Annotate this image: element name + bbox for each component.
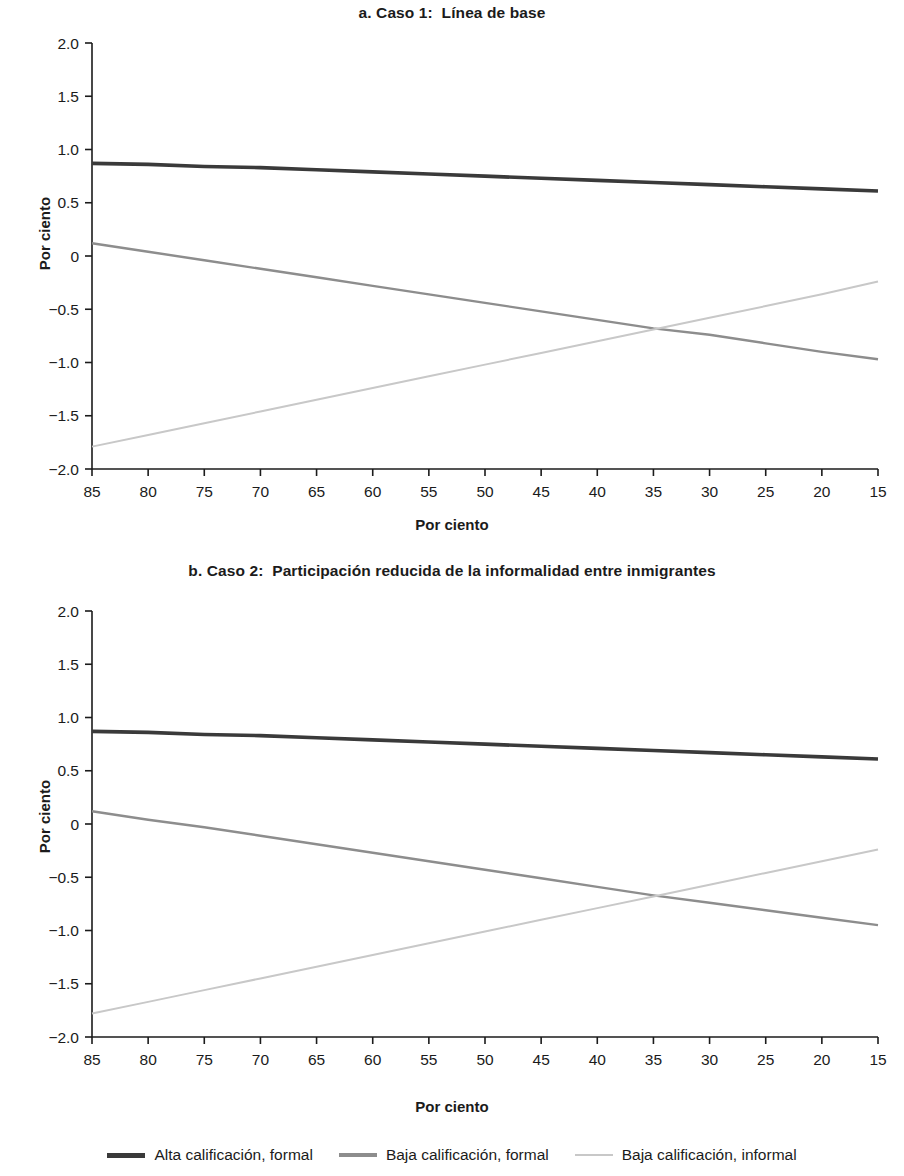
y-axis-tick-label: 0.5 [57, 194, 79, 211]
x-axis-tick-label: 35 [645, 483, 662, 500]
x-axis-tick-label: 25 [757, 483, 774, 500]
x-axis-tick-label: 85 [83, 483, 100, 500]
x-axis-tick-label: 65 [308, 483, 325, 500]
legend-swatch [575, 1154, 613, 1157]
x-axis-tick-label: 30 [701, 483, 719, 500]
panel-a-y-axis-label: Por ciento [36, 174, 53, 294]
x-axis-tick-label: 70 [252, 1051, 270, 1068]
x-axis-tick-label: 45 [533, 483, 550, 500]
x-axis-tick-label: 15 [869, 483, 886, 500]
x-axis-tick-label: 25 [757, 1051, 774, 1068]
y-axis-tick-label: 2.0 [57, 603, 79, 620]
x-axis-tick-label: 30 [701, 1051, 719, 1068]
x-axis-tick-label: 20 [813, 483, 831, 500]
panel-a-x-axis-label: Por ciento [0, 516, 904, 533]
legend-item: Baja calificación, informal [575, 1146, 797, 1164]
y-axis-tick-label: 0 [70, 248, 79, 265]
x-axis-tick-label: 75 [196, 483, 213, 500]
x-axis-tick-label: 20 [813, 1051, 831, 1068]
y-axis-tick-label: 1.0 [57, 709, 79, 726]
x-axis-tick-label: 65 [308, 1051, 325, 1068]
chart-legend: Alta calificación, formalBaja calificaci… [0, 1146, 904, 1164]
chart-panel-b: 2.01.51.00.50−0.5−1.0−1.5−2.085807570656… [0, 592, 904, 1082]
legend-item: Alta calificación, formal [107, 1146, 313, 1164]
x-axis-tick-label: 80 [140, 483, 158, 500]
legend-item: Baja calificación, formal [339, 1146, 549, 1164]
x-axis-tick-label: 75 [196, 1051, 213, 1068]
y-axis-tick-label: 0 [70, 816, 79, 833]
panel-b-y-axis-label: Por ciento [36, 757, 53, 877]
legend-label: Baja calificación, informal [622, 1146, 797, 1164]
x-axis-tick-label: 50 [476, 483, 494, 500]
y-axis-tick-label: −0.5 [48, 869, 79, 886]
legend-swatch [339, 1153, 377, 1157]
y-axis-tick-label: −0.5 [48, 301, 79, 318]
legend-label: Baja calificación, formal [386, 1146, 549, 1164]
series-line [92, 811, 878, 925]
x-axis-tick-label: 70 [252, 483, 270, 500]
x-axis-tick-label: 80 [140, 1051, 158, 1068]
legend-label: Alta calificación, formal [154, 1146, 313, 1164]
x-axis-tick-label: 60 [364, 483, 382, 500]
legend-swatch [107, 1153, 145, 1158]
x-axis-tick-label: 50 [476, 1051, 494, 1068]
panel-b-x-axis-label: Por ciento [0, 1098, 904, 1115]
x-axis-tick-label: 55 [420, 1051, 437, 1068]
y-axis-tick-label: −1.0 [48, 354, 79, 371]
x-axis-tick-label: 40 [589, 483, 607, 500]
series-line [92, 282, 878, 447]
figure-page: a. Caso 1: Línea de base 2.01.51.00.50−0… [0, 0, 904, 1176]
panel-b-title: b. Caso 2: Participación reducida de la … [0, 562, 904, 580]
x-axis-tick-label: 35 [645, 1051, 662, 1068]
x-axis-tick-label: 55 [420, 483, 437, 500]
x-axis-tick-label: 15 [869, 1051, 886, 1068]
y-axis-tick-label: 1.0 [57, 141, 79, 158]
chart-panel-a: 2.01.51.00.50−0.5−1.0−1.5−2.085807570656… [0, 24, 904, 514]
series-line [92, 850, 878, 1014]
panel-a-title: a. Caso 1: Línea de base [0, 4, 904, 22]
y-axis-tick-label: −1.0 [48, 922, 79, 939]
series-line [92, 163, 878, 191]
y-axis-tick-label: −1.5 [48, 975, 79, 992]
series-line [92, 731, 878, 759]
y-axis-tick-label: 2.0 [57, 35, 79, 52]
y-axis-tick-label: −2.0 [48, 1029, 79, 1046]
x-axis-tick-label: 40 [589, 1051, 607, 1068]
x-axis-tick-label: 60 [364, 1051, 382, 1068]
x-axis-tick-label: 45 [533, 1051, 550, 1068]
y-axis-tick-label: −2.0 [48, 461, 79, 478]
series-line [92, 243, 878, 359]
y-axis-tick-label: 1.5 [57, 88, 79, 105]
x-axis-tick-label: 85 [83, 1051, 100, 1068]
y-axis-tick-label: 1.5 [57, 656, 79, 673]
y-axis-tick-label: −1.5 [48, 407, 79, 424]
y-axis-tick-label: 0.5 [57, 762, 79, 779]
